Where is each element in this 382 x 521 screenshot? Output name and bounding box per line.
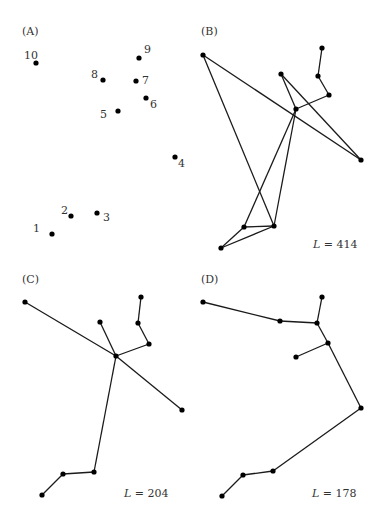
node-6 — [325, 340, 330, 345]
edge — [138, 297, 141, 323]
node-8 — [277, 318, 282, 323]
panel-a: (A)12345678910 — [22, 25, 185, 237]
length-value: = 414 — [320, 238, 357, 251]
node-2 — [68, 213, 73, 218]
length-symbol: L — [312, 238, 320, 251]
node-9 — [136, 55, 141, 60]
edge — [243, 471, 273, 475]
node-label: 2 — [61, 204, 68, 217]
edge — [94, 356, 116, 472]
edge — [296, 95, 329, 109]
edge — [296, 343, 328, 357]
edge — [222, 475, 243, 496]
node-3 — [270, 468, 275, 473]
node-label: 7 — [142, 74, 149, 87]
edge — [25, 302, 116, 356]
edge — [63, 472, 94, 474]
length-label: L = 178 — [311, 487, 357, 500]
panel-d: (D)L = 178 — [200, 273, 363, 500]
node-1 — [219, 493, 224, 498]
panel-label: (B) — [201, 25, 218, 38]
node-label: 10 — [24, 49, 38, 62]
edge — [116, 356, 182, 410]
panel-label: (D) — [201, 273, 218, 286]
node-label: 6 — [150, 98, 157, 111]
node-6 — [326, 92, 331, 97]
node-3 — [94, 210, 99, 215]
node-3 — [271, 223, 276, 228]
edge — [280, 321, 317, 323]
node-4 — [358, 157, 363, 162]
node-10 — [200, 52, 205, 57]
edge — [317, 297, 322, 323]
edge — [244, 226, 274, 227]
network-figure: (A)12345678910 (B)L = 414 (C)L = 204 (D)… — [0, 0, 382, 521]
edge — [317, 323, 328, 343]
edge — [221, 226, 274, 248]
node-label: 5 — [100, 108, 107, 121]
length-label: L = 204 — [123, 487, 169, 500]
edge — [318, 48, 322, 76]
panel-c: (C)L = 204 — [22, 273, 185, 500]
edge — [328, 343, 361, 408]
node-2 — [241, 224, 246, 229]
edge — [318, 76, 329, 95]
node-6 — [143, 95, 148, 100]
node-5 — [293, 354, 298, 359]
node-8 — [97, 319, 102, 324]
edge — [116, 344, 149, 356]
node-7 — [133, 78, 138, 83]
panel-label: (C) — [22, 273, 39, 286]
edge — [281, 74, 296, 109]
node-9 — [138, 294, 143, 299]
edge — [203, 302, 280, 321]
node-4 — [179, 407, 184, 412]
node-label: 9 — [144, 43, 151, 56]
edge — [221, 227, 244, 248]
edge — [203, 55, 361, 160]
edge — [274, 109, 296, 226]
node-5 — [293, 106, 298, 111]
node-5 — [115, 108, 120, 113]
edge — [138, 323, 149, 344]
length-value: = 178 — [319, 487, 356, 500]
edge — [244, 109, 296, 227]
node-label: 1 — [33, 222, 40, 235]
length-label: L = 414 — [312, 238, 358, 251]
node-7 — [314, 320, 319, 325]
node-10 — [22, 299, 27, 304]
length-symbol: L — [123, 487, 131, 500]
node-4 — [358, 405, 363, 410]
node-1 — [39, 492, 44, 497]
node-10 — [200, 299, 205, 304]
node-6 — [146, 341, 151, 346]
panel-b: (B)L = 414 — [200, 25, 363, 251]
edge — [273, 408, 361, 471]
node-1 — [218, 245, 223, 250]
node-4 — [172, 154, 177, 159]
node-label: 4 — [178, 157, 185, 170]
edge — [203, 55, 274, 226]
node-9 — [319, 294, 324, 299]
node-3 — [91, 469, 96, 474]
edge — [42, 474, 63, 495]
node-label: 8 — [91, 68, 98, 81]
node-1 — [49, 231, 54, 236]
panel-label: (A) — [22, 25, 39, 38]
node-label: 3 — [103, 211, 110, 224]
length-symbol: L — [311, 487, 319, 500]
node-7 — [315, 73, 320, 78]
node-9 — [319, 45, 324, 50]
node-8 — [100, 77, 105, 82]
node-7 — [135, 320, 140, 325]
node-8 — [278, 71, 283, 76]
node-5 — [113, 353, 118, 358]
node-2 — [240, 472, 245, 477]
length-value: = 204 — [131, 487, 168, 500]
node-2 — [60, 471, 65, 476]
